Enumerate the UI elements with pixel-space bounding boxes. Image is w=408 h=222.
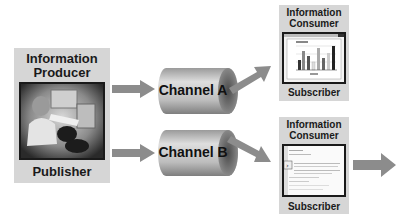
consumer-1-screen bbox=[282, 32, 346, 84]
consumer-1-title: Information Consumer bbox=[279, 8, 349, 29]
consumer-1-footer: Subscriber bbox=[279, 87, 349, 98]
arrow-right-icon bbox=[112, 144, 155, 162]
channel-arrows bbox=[225, 50, 285, 180]
producer-arrows bbox=[110, 80, 158, 165]
consumer-panel-1: Information Consumer Subscriber bbox=[279, 5, 349, 101]
consumer-2-screen: › bbox=[282, 144, 346, 197]
consumer-1-title-line2: Consumer bbox=[279, 19, 349, 30]
producer-title-line2: Producer bbox=[14, 66, 110, 80]
producer-photo bbox=[19, 82, 105, 160]
consumer-panel-2: Information Consumer › Subscriber bbox=[279, 117, 349, 214]
consumer-2-title-line1: Information bbox=[279, 120, 349, 131]
producer-title: Information Producer bbox=[14, 52, 110, 79]
arrow-down-right-icon bbox=[227, 136, 271, 162]
arrow-right-icon bbox=[353, 153, 396, 177]
channel-b-label: Channel B bbox=[158, 144, 228, 160]
output-arrow bbox=[351, 152, 399, 178]
svg-text:›: › bbox=[286, 162, 289, 170]
producer-title-line1: Information bbox=[14, 52, 110, 66]
people-photo-icon bbox=[21, 84, 103, 158]
arrow-right-icon bbox=[112, 80, 155, 98]
consumer-2-title: Information Consumer bbox=[279, 120, 349, 141]
bar-chart-window-icon bbox=[284, 34, 344, 82]
consumer-2-title-line2: Consumer bbox=[279, 131, 349, 142]
consumer-2-footer: Subscriber bbox=[279, 201, 349, 212]
arrow-up-right-icon bbox=[229, 66, 271, 94]
consumer-1-title-line1: Information bbox=[279, 8, 349, 19]
producer-panel: Information Producer Publisher bbox=[14, 48, 110, 183]
channel-a-label: Channel A bbox=[158, 82, 228, 98]
text-document-window-icon: › bbox=[284, 146, 344, 195]
producer-footer: Publisher bbox=[14, 164, 110, 179]
